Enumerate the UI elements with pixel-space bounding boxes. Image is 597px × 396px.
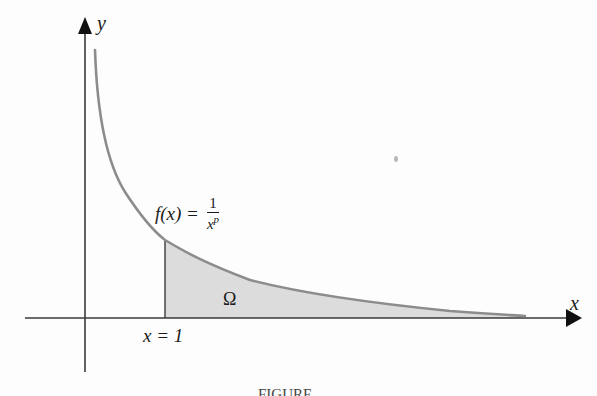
function-label: f(x) = 1 xp <box>155 196 219 232</box>
y-axis-arrow-icon <box>78 17 92 34</box>
omega-shaded-region <box>165 240 525 318</box>
function-curve <box>95 50 525 316</box>
fraction-denominator: xp <box>207 212 219 232</box>
denominator-base: x <box>207 216 214 232</box>
speck-artifact <box>394 156 398 162</box>
diagram-canvas <box>0 0 597 396</box>
denominator-exponent: p <box>214 213 220 225</box>
function-label-prefix: f(x) = <box>155 203 199 225</box>
improper-integral-diagram: y x f(x) = 1 xp Ω x = 1 FIGURE <box>0 0 597 396</box>
fraction-numerator: 1 <box>209 196 217 212</box>
function-fraction: 1 xp <box>207 196 219 232</box>
x-axis-label: x <box>570 292 579 315</box>
region-label: Ω <box>223 289 236 310</box>
x-equals-1-label: x = 1 <box>143 325 183 347</box>
y-axis-label: y <box>97 12 106 35</box>
figure-caption: FIGURE <box>258 386 312 396</box>
